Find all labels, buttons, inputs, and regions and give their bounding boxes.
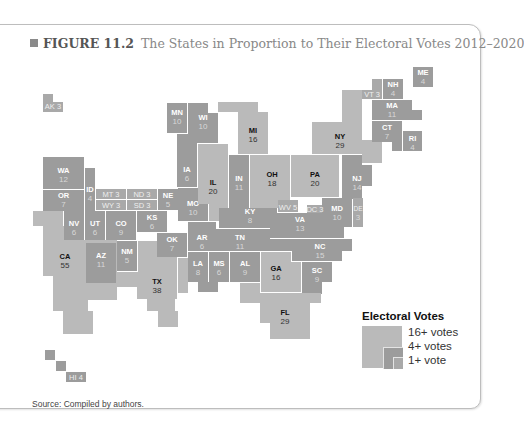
label-AZ: AZ11 [86,251,116,269]
label-AR: AR6 [188,233,216,251]
state-MI [218,102,258,112]
label-CA: CA55 [50,252,80,270]
label-LA: LA8 [188,259,208,277]
state-CT [392,142,402,151]
state-VA [322,227,344,238]
label-DE: DE3 [353,204,363,222]
label-NV: NV6 [64,219,84,237]
state-MA [412,110,422,120]
label-IL: IL20 [198,178,228,196]
label-UT: UT6 [85,219,105,237]
state-LA [198,282,218,292]
state-HI [45,350,55,360]
label-OR: OR7 [43,191,84,209]
label-NY: NY29 [325,132,355,150]
state-TX [178,258,188,293]
state-GA [291,262,301,292]
label-OK: OK7 [157,235,187,253]
state-HI [56,361,66,371]
label-ID: ID4 [85,185,95,203]
label-NH: NH4 [383,80,403,98]
label-SC: SC9 [302,266,332,284]
label-WI: WI10 [188,113,218,131]
legend-label-4plus: 4+ votes [408,340,452,352]
label-GA: GA16 [261,264,291,282]
state-CA [33,211,63,226]
label-NE: NE5 [158,191,178,209]
label-AL: AL9 [230,259,260,277]
legend-label-1plus: 1+ vote [408,354,446,366]
label-HI: HI 4 [66,373,86,382]
label-NC: NC15 [305,242,335,260]
label-MA: MA11 [372,101,412,119]
label-CO: CO9 [106,219,136,237]
label-MD: MD10 [322,204,352,222]
state-AK [43,94,53,102]
label-WA: WA12 [43,166,84,184]
label-IA: IA6 [177,165,197,183]
label-AK: AK 3 [43,102,63,111]
legend: Electoral Votes 16+ votes 4+ votes 1+ vo… [362,310,444,322]
legend-title: Electoral Votes [362,310,444,322]
label-CT: CT7 [372,123,402,141]
label-TX: TX38 [142,277,172,295]
label-VT: VT 3 [362,90,382,99]
state-NY [362,140,382,163]
state-CA [63,311,93,334]
label-WV: WV 5 [277,203,299,212]
label-KY: KY8 [235,207,265,225]
label-OH: OH18 [252,170,292,188]
label-KS: KS6 [137,213,167,231]
source-note: Source: Compiled by authors. [32,399,144,409]
legend-label-16plus: 16+ votes [408,326,458,338]
label-SD: SD 3 [127,201,157,210]
label-MS: MS6 [209,259,229,277]
label-MN: MN10 [167,108,187,126]
label-MT: MT 3 [96,190,126,199]
legend-swatch-1plus [393,357,403,369]
label-PA: PA20 [291,170,339,188]
label-VA: VA13 [285,215,315,233]
label-MI: MI16 [238,126,268,144]
state-FL [240,293,321,303]
state-TX [158,311,178,327]
label-ND: ND 3 [127,190,157,199]
state-TX [147,299,175,311]
state-VT [372,79,382,90]
label-NJ: NJ14 [347,174,367,192]
label-RI: RI4 [403,134,422,152]
state-CA [53,276,88,311]
label-ME: ME4 [413,68,433,86]
label-TN: TN11 [225,233,255,251]
label-NM: NM5 [117,247,137,265]
label-WY: WY 3 [96,201,126,210]
state-WI [188,103,208,113]
label-IN: IN11 [229,174,249,192]
label-FL: FL29 [270,308,300,326]
